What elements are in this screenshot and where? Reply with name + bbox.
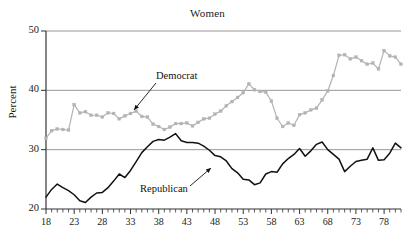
series-marker-democrat: [45, 137, 48, 140]
x-tick-label-18: 18: [34, 216, 58, 227]
y-tick-label-40: 40: [13, 83, 39, 94]
series-marker-democrat: [191, 125, 194, 128]
series-marker-democrat: [332, 74, 335, 77]
series-marker-democrat: [287, 122, 290, 125]
x-tick-label-68: 68: [316, 216, 340, 227]
series-marker-democrat: [270, 100, 273, 103]
series-marker-democrat: [185, 122, 188, 125]
y-tick-label-30: 30: [13, 143, 39, 154]
series-marker-democrat: [377, 68, 380, 71]
series-marker-democrat: [112, 112, 115, 115]
series-marker-democrat: [146, 116, 149, 119]
series-marker-democrat: [242, 91, 245, 94]
annotation-democrat: Democrat: [156, 70, 197, 81]
chart-figure: Women Percent 20304050 18232833384348535…: [0, 0, 415, 247]
series-line-republican: [46, 134, 401, 203]
series-marker-democrat: [371, 62, 374, 65]
x-axis-ticks: [46, 209, 401, 214]
y-axis-ticks: [41, 31, 46, 209]
x-tick-label-33: 33: [119, 216, 143, 227]
series-marker-democrat: [202, 117, 205, 120]
series-marker-democrat: [157, 125, 160, 128]
x-tick-label-73: 73: [344, 216, 368, 227]
series-marker-democrat: [140, 115, 143, 118]
series-marker-democrat: [208, 117, 211, 120]
y-tick-label-20: 20: [13, 202, 39, 213]
series-marker-democrat: [95, 114, 98, 117]
series-marker-democrat: [309, 109, 312, 112]
series-marker-democrat: [73, 103, 76, 106]
series-marker-democrat: [321, 98, 324, 101]
series-marker-democrat: [276, 117, 279, 120]
series-marker-democrat: [56, 128, 59, 131]
series-marker-democrat: [400, 63, 403, 66]
series-marker-democrat: [360, 59, 363, 62]
series-marker-democrat: [253, 88, 256, 91]
series-marker-democrat: [50, 129, 53, 132]
series-marker-democrat: [214, 113, 217, 116]
series-marker-democrat: [90, 114, 93, 117]
series-marker-democrat: [129, 112, 132, 115]
series-marker-democrat: [169, 126, 172, 129]
series-marker-democrat: [247, 82, 250, 85]
series-marker-democrat: [259, 90, 262, 93]
x-tick-label-43: 43: [175, 216, 199, 227]
series-marker-democrat: [315, 107, 318, 110]
x-tick-label-38: 38: [147, 216, 171, 227]
x-tick-label-53: 53: [231, 216, 255, 227]
series-marker-democrat: [152, 123, 155, 126]
series-marker-democrat: [236, 96, 239, 99]
x-tick-label-58: 58: [259, 216, 283, 227]
x-tick-label-63: 63: [288, 216, 312, 227]
series-marker-democrat: [349, 57, 352, 60]
series-marker-democrat: [366, 63, 369, 66]
series-marker-democrat: [163, 128, 166, 131]
series-marker-democrat: [231, 100, 234, 103]
series-marker-democrat: [107, 111, 110, 114]
series-marker-democrat: [355, 56, 358, 59]
series-marker-democrat: [84, 110, 87, 113]
series-marker-democrat: [219, 110, 222, 113]
x-tick-label-78: 78: [372, 216, 396, 227]
series-marker-democrat: [343, 53, 346, 56]
series-marker-democrat: [135, 110, 138, 113]
series-marker-democrat: [304, 111, 307, 114]
data-series-group: [45, 49, 403, 202]
series-marker-democrat: [264, 91, 267, 94]
series-marker-democrat: [67, 129, 70, 132]
x-tick-label-23: 23: [62, 216, 86, 227]
series-marker-democrat: [338, 54, 341, 57]
series-marker-democrat: [101, 116, 104, 119]
series-marker-democrat: [174, 122, 177, 125]
series-marker-democrat: [298, 113, 301, 116]
annotation-republican: Republican: [140, 183, 188, 194]
series-marker-democrat: [123, 114, 126, 117]
series-marker-democrat: [118, 117, 121, 120]
democrat-arrow: [134, 83, 156, 110]
series-line-democrat: [46, 51, 401, 139]
x-tick-label-28: 28: [90, 216, 114, 227]
series-marker-democrat: [197, 121, 200, 124]
series-marker-democrat: [326, 90, 329, 93]
annotation-arrows: [134, 83, 211, 186]
series-marker-democrat: [293, 124, 296, 127]
series-marker-democrat: [383, 49, 386, 52]
series-marker-democrat: [388, 55, 391, 58]
series-marker-democrat: [394, 56, 397, 59]
series-marker-democrat: [180, 122, 183, 125]
plot-area: [0, 0, 415, 247]
gridlines-group: [46, 31, 401, 150]
x-tick-label-48: 48: [203, 216, 227, 227]
series-marker-democrat: [62, 128, 65, 131]
series-marker-democrat: [281, 125, 284, 128]
y-tick-label-50: 50: [13, 24, 39, 35]
series-marker-democrat: [225, 104, 228, 107]
series-marker-democrat: [78, 111, 81, 114]
